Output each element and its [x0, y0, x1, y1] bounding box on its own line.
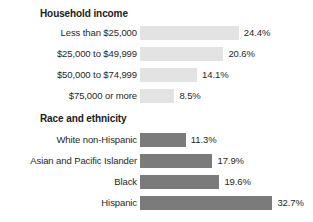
bar	[140, 196, 272, 210]
value-label: 19.6%	[224, 173, 250, 191]
bar-row: Black 19.6%	[0, 173, 313, 191]
group-title-race-and-ethnicity: Race and ethnicity	[40, 113, 127, 124]
value-label: 17.9%	[217, 152, 243, 170]
bar	[140, 26, 239, 40]
bar	[140, 133, 186, 147]
value-label: 20.6%	[228, 45, 254, 63]
bar	[140, 154, 212, 168]
bar	[140, 89, 174, 103]
value-label: 8.5%	[179, 87, 200, 105]
category-label: White non-Hispanic	[0, 131, 137, 149]
bar-row: $75,000 or more 8.5%	[0, 87, 313, 105]
value-label: 11.3%	[191, 131, 217, 149]
category-label: Less than $25,000	[0, 24, 137, 42]
bar-row: Asian and Pacific Islander 17.9%	[0, 152, 313, 170]
bar-row: $25,000 to $49,999 20.6%	[0, 45, 313, 63]
bar-chart: Household income Less than $25,000 24.4%…	[0, 0, 313, 222]
category-label: $25,000 to $49,999	[0, 45, 137, 63]
category-label: Black	[0, 173, 137, 191]
group-title-household-income: Household income	[40, 8, 128, 19]
value-label: 24.4%	[244, 24, 270, 42]
bar	[140, 68, 197, 82]
value-label: 32.7%	[277, 194, 303, 212]
category-label: $75,000 or more	[0, 87, 137, 105]
category-label: $50,000 to $74,999	[0, 66, 137, 84]
bar-row: Less than $25,000 24.4%	[0, 24, 313, 42]
bar-row: $50,000 to $74,999 14.1%	[0, 66, 313, 84]
value-label: 14.1%	[202, 66, 228, 84]
category-label: Asian and Pacific Islander	[0, 152, 137, 170]
bar	[140, 175, 219, 189]
bar-row: White non-Hispanic 11.3%	[0, 131, 313, 149]
category-label: Hispanic	[0, 194, 137, 212]
bar-row: Hispanic 32.7%	[0, 194, 313, 212]
bar	[140, 47, 223, 61]
